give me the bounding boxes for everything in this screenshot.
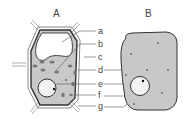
label-b: b	[98, 39, 103, 49]
label-g: g	[98, 101, 103, 111]
title-cell-a: A	[53, 8, 60, 19]
label-e: e	[98, 79, 103, 89]
nucleus-a	[38, 79, 56, 97]
label-a: a	[98, 26, 103, 36]
title-cell-b: B	[145, 8, 152, 19]
nucleolus-a	[53, 88, 55, 90]
label-f: f	[98, 90, 101, 100]
label-c: c	[98, 52, 103, 62]
nucleolus-b	[142, 80, 144, 82]
cytoplasm-b	[121, 32, 177, 110]
cell-diagram: a b c d e f g A B	[0, 0, 193, 127]
label-d: d	[98, 65, 103, 75]
nucleus-b	[131, 77, 150, 96]
